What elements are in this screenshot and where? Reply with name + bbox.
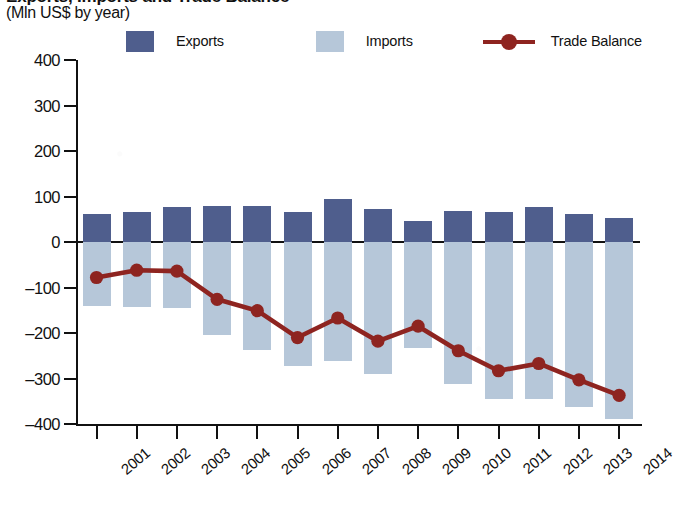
y-tick-label: 200 — [0, 142, 60, 161]
y-tick-label: –100 — [0, 278, 60, 297]
x-tick — [256, 426, 258, 439]
y-tick — [64, 196, 76, 198]
x-tick — [538, 426, 540, 439]
trade-balance-point — [572, 373, 585, 386]
y-tick — [64, 378, 76, 380]
trade-balance-point — [211, 293, 224, 306]
x-tick — [337, 426, 339, 439]
x-tick — [176, 426, 178, 439]
x-tick — [136, 426, 138, 439]
legend-item-exports[interactable]: Exports — [126, 31, 224, 52]
x-tick — [417, 426, 419, 439]
x-tick-label: 2011 — [519, 444, 554, 477]
y-tick — [64, 332, 76, 334]
x-tick — [96, 426, 98, 439]
x-tick-label: 2009 — [439, 444, 475, 478]
legend-label-trade-balance: Trade Balance — [551, 33, 642, 49]
x-tick-label: 2001 — [117, 444, 153, 478]
y-tick — [64, 241, 76, 243]
y-tick-label: –200 — [0, 324, 60, 343]
legend-label-imports: Imports — [366, 33, 413, 49]
trade-balance-point — [452, 344, 465, 357]
x-tick — [578, 426, 580, 439]
x-tick — [297, 426, 299, 439]
x-tick — [216, 426, 218, 439]
trade-balance-point — [90, 271, 103, 284]
trade-balance-point — [492, 364, 505, 377]
trade-balance-point — [331, 311, 344, 324]
x-tick-label: 2010 — [479, 444, 515, 478]
plot-area: 4003002001000–100–200–300–400 2001200220… — [76, 60, 640, 424]
trade-balance-point — [251, 304, 264, 317]
legend-swatch-imports — [316, 31, 344, 52]
legend-item-trade-balance[interactable]: Trade Balance — [483, 31, 642, 52]
trade-balance-line — [97, 270, 620, 395]
x-tick-label: 2002 — [157, 444, 193, 478]
x-tick-label: 2006 — [318, 444, 354, 478]
legend-item-imports[interactable]: Imports — [316, 31, 413, 52]
trade-balance-point — [170, 265, 183, 278]
trade-balance-point — [613, 389, 626, 402]
x-tick-label: 2012 — [559, 444, 595, 478]
y-tick — [64, 105, 76, 107]
x-axis-line — [76, 424, 642, 426]
x-tick-label: 2004 — [238, 444, 274, 478]
y-tick — [64, 287, 76, 289]
y-tick-label: 300 — [0, 96, 60, 115]
x-tick — [457, 426, 459, 439]
y-tick-label: –300 — [0, 369, 60, 388]
legend-swatch-exports — [126, 31, 154, 52]
x-tick-label: 2003 — [197, 444, 233, 478]
y-tick-label: 0 — [0, 233, 60, 252]
trade-balance-point — [130, 264, 143, 277]
trade-balance-point — [532, 357, 545, 370]
legend-line-marker-icon — [483, 31, 535, 52]
y-tick — [64, 423, 76, 425]
trade-balance-point — [291, 331, 304, 344]
x-tick-label: 2008 — [398, 444, 434, 478]
y-tick-label: 100 — [0, 187, 60, 206]
trade-balance-line-series — [76, 60, 640, 424]
y-tick-label: –400 — [0, 415, 60, 434]
trade-balance-point — [371, 335, 384, 348]
x-tick — [498, 426, 500, 439]
chart-subtitle: (Mln US$ by year) — [6, 4, 130, 22]
y-tick — [64, 59, 76, 61]
x-tick-label: 2007 — [358, 444, 394, 478]
x-tick — [377, 426, 379, 439]
x-tick-label: 2013 — [599, 444, 635, 478]
x-tick — [618, 426, 620, 439]
y-tick-label: 400 — [0, 51, 60, 70]
x-tick-label: 2014 — [640, 444, 675, 478]
y-tick — [64, 150, 76, 152]
legend-label-exports: Exports — [176, 33, 224, 49]
chart-legend: Exports Imports Trade Balance — [126, 30, 642, 52]
trade-balance-point — [412, 320, 425, 333]
x-tick-label: 2005 — [278, 444, 314, 478]
